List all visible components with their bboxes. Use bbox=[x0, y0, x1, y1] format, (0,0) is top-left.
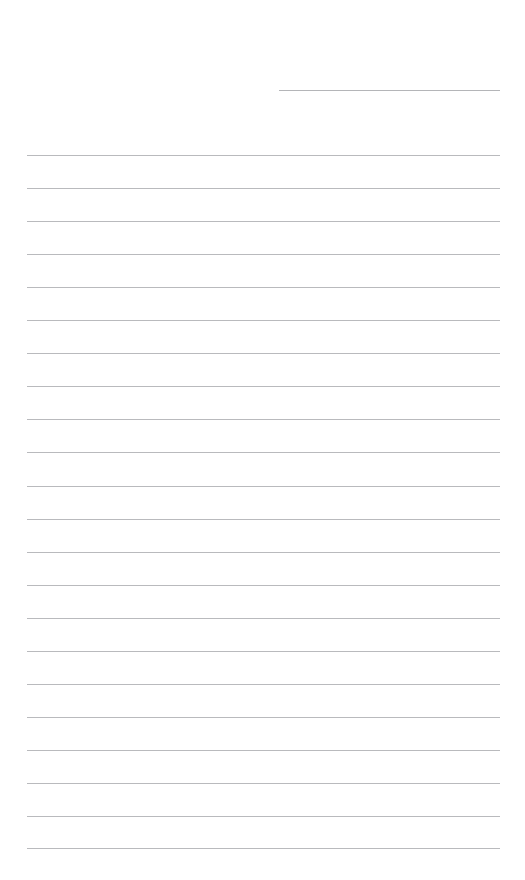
writing-line-slot[interactable] bbox=[27, 750, 500, 783]
writing-line-slot[interactable] bbox=[27, 122, 500, 155]
writing-line-slot[interactable] bbox=[27, 519, 500, 552]
writing-line-slot[interactable] bbox=[27, 254, 500, 287]
writing-line-slot[interactable] bbox=[27, 320, 500, 353]
writing-line-slot[interactable] bbox=[27, 783, 500, 816]
lined-page-canvas bbox=[0, 0, 525, 880]
writing-line-slot[interactable] bbox=[27, 552, 500, 585]
ruled-line[interactable] bbox=[27, 848, 500, 849]
writing-line-slot[interactable] bbox=[27, 386, 500, 419]
writing-line-slot[interactable] bbox=[27, 188, 500, 221]
writing-line-slot[interactable] bbox=[27, 221, 500, 254]
writing-line-slot[interactable] bbox=[27, 155, 500, 188]
writing-line-slot[interactable] bbox=[27, 684, 500, 717]
writing-line-slot[interactable] bbox=[27, 353, 500, 386]
writing-line-slot[interactable] bbox=[27, 486, 500, 519]
writing-line-slot[interactable] bbox=[27, 717, 500, 750]
writing-line-slot[interactable] bbox=[27, 585, 500, 618]
page-header-zone bbox=[0, 0, 525, 80]
short-rule-top-right[interactable] bbox=[279, 90, 500, 91]
writing-line-slot[interactable] bbox=[27, 287, 500, 320]
writing-line-slot[interactable] bbox=[27, 452, 500, 486]
writing-line-slot[interactable] bbox=[27, 816, 500, 848]
writing-line-slot[interactable] bbox=[27, 651, 500, 684]
writing-line-slot[interactable] bbox=[27, 419, 500, 452]
writing-line-slot[interactable] bbox=[27, 618, 500, 651]
